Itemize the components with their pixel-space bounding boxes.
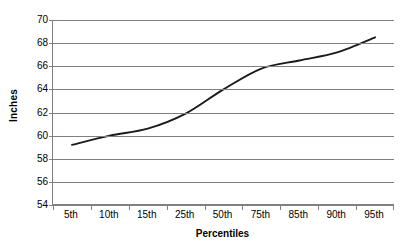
y-tick-58: [49, 159, 53, 160]
x-axis-tick-labels: 5th10th15th25th50th75th85th90th95th: [52, 209, 393, 225]
y-tick-label-68: 68: [22, 38, 48, 48]
x-axis-title: Percentiles: [52, 228, 393, 239]
y-tick-70: [49, 20, 53, 21]
y-tick-label-60: 60: [22, 131, 48, 141]
series-path-height: [72, 37, 375, 145]
y-tick-label-64: 64: [22, 84, 48, 94]
gridline-y-58: [53, 159, 394, 160]
y-tick-56: [49, 182, 53, 183]
y-tick-label-56: 56: [22, 177, 48, 187]
gridline-y-70: [53, 20, 394, 21]
y-axis-tick-labels: 706866646260585654: [22, 20, 48, 205]
y-tick-label-70: 70: [22, 15, 48, 25]
y-tick-62: [49, 113, 53, 114]
gridline-y-68: [53, 43, 394, 44]
gridline-y-62: [53, 113, 394, 114]
y-tick-label-54: 54: [22, 200, 48, 210]
y-axis-title-label: Inches: [8, 89, 19, 122]
gridline-y-60: [53, 136, 394, 137]
line-chart: Inches 706866646260585654 5th10th15th25t…: [0, 0, 410, 251]
gridline-y-64: [53, 89, 394, 90]
y-tick-label-58: 58: [22, 154, 48, 164]
gridline-y-66: [53, 66, 394, 67]
y-tick-60: [49, 136, 53, 137]
gridline-y-56: [53, 182, 394, 183]
plot-area: [52, 20, 394, 205]
y-tick-label-62: 62: [22, 108, 48, 118]
y-tick-64: [49, 89, 53, 90]
y-tick-label-66: 66: [22, 61, 48, 71]
y-tick-66: [49, 66, 53, 67]
gridline-y-54: [53, 205, 394, 206]
y-tick-68: [49, 43, 53, 44]
x-tick-label-95th: 95th: [352, 209, 396, 221]
